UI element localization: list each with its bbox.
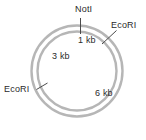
segment-label-1kb: 1 kb <box>78 35 96 45</box>
noti-site-label: NotI <box>75 4 92 14</box>
plasmid-map-figure: NotI 1 kb EcoRI 3 kb EcoRI 6 kb <box>0 0 146 140</box>
ecori-site-label-top: EcoRI <box>111 20 137 30</box>
segment-label-3kb: 3 kb <box>52 51 70 61</box>
segment-label-6kb: 6 kb <box>95 88 113 98</box>
ecori-site-label-left: EcoRI <box>4 84 30 94</box>
ecori-top-leader-line <box>102 31 117 45</box>
inner-ring-circle <box>38 32 117 111</box>
outer-ring-circle <box>32 26 123 117</box>
